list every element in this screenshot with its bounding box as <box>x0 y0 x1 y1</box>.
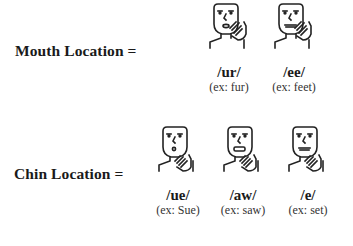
face-hand-mouth-icon <box>204 2 254 54</box>
cue-ur: /ur/ (ex: fur) <box>193 2 265 94</box>
sound-label: /ee/ <box>258 64 330 80</box>
sound-label: /aw/ <box>207 187 279 203</box>
sound-label: /e/ <box>272 187 344 203</box>
cue-aw: /aw/ (ex: saw) <box>207 125 279 217</box>
sound-label: /ue/ <box>142 187 214 203</box>
cue-e: /e/ (ex: set) <box>272 125 344 217</box>
cue-ue: /ue/ (ex: Sue) <box>142 125 214 217</box>
example-label: (ex: feet) <box>258 80 330 94</box>
mouth-location-label: Mouth Location = <box>15 42 137 60</box>
example-label: (ex: saw) <box>207 203 279 217</box>
example-label: (ex: fur) <box>193 80 265 94</box>
chin-location-label: Chin Location = <box>14 165 123 183</box>
cue-ee: /ee/ (ex: feet) <box>258 2 330 94</box>
face-hand-mouth-icon <box>269 2 319 54</box>
face-hand-chin-icon <box>153 125 203 177</box>
example-label: (ex: set) <box>272 203 344 217</box>
face-hand-chin-icon <box>283 125 333 177</box>
sound-label: /ur/ <box>193 64 265 80</box>
example-label: (ex: Sue) <box>142 203 214 217</box>
face-hand-chin-icon <box>218 125 268 177</box>
